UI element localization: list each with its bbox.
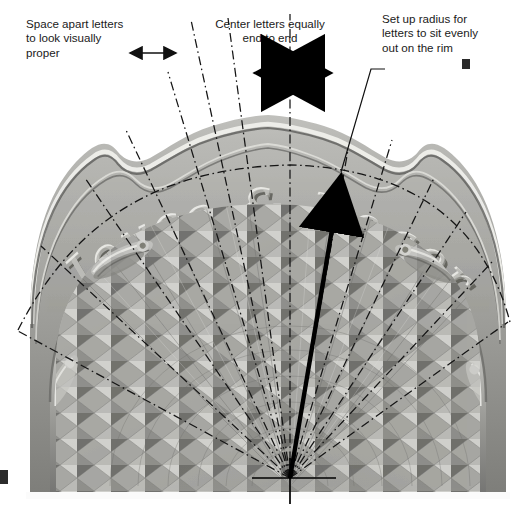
carved-plate-photograph: Joyce & Roger Joyce & Roger Joyce & Roge… (26, 62, 510, 499)
annotation-set-up-radius: Set up radius for letters to sit evenly … (382, 12, 514, 55)
annotation-space-apart-letters: Space apart letters to look visually pro… (26, 17, 162, 60)
annotation-center-letters: Center letters equally end to end (186, 17, 354, 46)
plate-photo-svg: Joyce & Roger Joyce & Roger Joyce & Roge… (26, 62, 510, 499)
registration-mark-left (0, 470, 8, 484)
figure-root: Space apart letters to look visually pro… (0, 0, 524, 514)
registration-mark-right (462, 59, 470, 69)
